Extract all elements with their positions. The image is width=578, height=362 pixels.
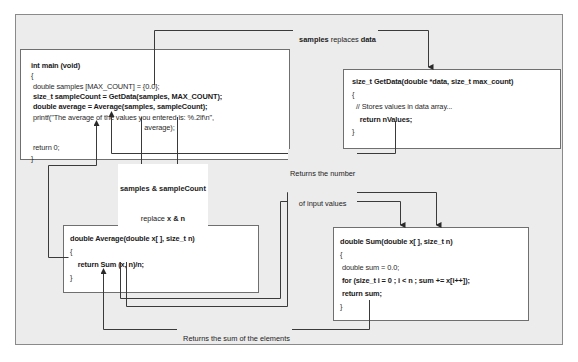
code-line: average); [31,123,175,133]
code-line: int main (void) [31,61,80,71]
average-function-box: double Average(double x[ ], size_t n){ r… [63,225,259,293]
code-line: { [70,247,72,257]
main-function-box: int main (void){ double samples [MAX_COU… [20,49,290,160]
code-line: double Sum(double x[ ], size_t n) [340,237,453,247]
getdata-function-box: size_t GetData(double *data, size_t max_… [343,69,561,149]
code-line: printf("The average of the values you en… [31,113,214,123]
code-line: for (size_t i = 0 ; i < n ; sum += x[i++… [340,276,470,286]
code-line: { [340,250,342,260]
code-line: } [31,154,33,164]
code-line: // Stores values in data array... [352,102,452,112]
code-line: double samples [MAX_COUNT] = {0.0}; [31,82,159,92]
samples-replace-xn-label: samples & sampleCount replace x & n [118,164,208,234]
code-line: } [70,273,72,283]
code-line: double average = Average(samples, sample… [31,102,207,112]
code-line: return 0; [31,143,60,153]
code-line: double Average(double x[ ], size_t n) [70,234,195,244]
code-line: size_t GetData(double *data, size_t max_… [352,77,513,87]
code-line: return nValues; [352,115,412,125]
sum-function-box: double Sum(double x[ ], size_t n){ doubl… [333,227,529,321]
code-line: } [352,127,354,137]
code-line: } [340,302,342,312]
code-line: { [352,90,354,100]
samples-replaces-data-label: samples replaces data [293,25,378,45]
returns-number-label: Returns the number of input values [288,149,357,219]
returns-sum-label: Returns the sum of the elements [177,324,292,344]
code-line: return sum; [340,289,382,299]
code-line: size_t sampleCount = GetData(samples, MA… [31,92,222,102]
code-line: return Sum (x, n)/n; [70,260,144,270]
code-line: double sum = 0.0; [340,263,399,273]
code-line: { [31,71,33,81]
